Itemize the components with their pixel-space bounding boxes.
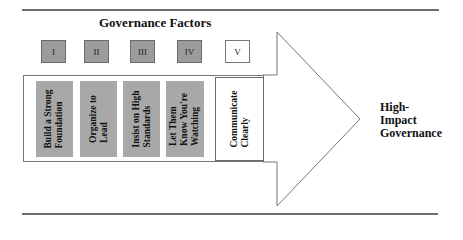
factor-box-label: V (234, 47, 241, 57)
factor-column-1: Build a Strong Foundation (36, 81, 73, 157)
factor-box-label: I (52, 47, 55, 57)
factor-box-label: III (138, 47, 147, 57)
factor-column-5: Communicate Clearly (215, 77, 264, 161)
factor-column-4: Let Them Know You're Watching (166, 81, 204, 157)
factor-box-4: IV (177, 40, 202, 63)
factor-box-1: I (41, 40, 66, 63)
factor-column-label: Insist on High Standards (131, 90, 153, 147)
factor-column-label: Let Them Know You're Watching (169, 92, 202, 145)
factor-box-label: IV (185, 47, 195, 57)
outcome-label: High- Impact Governance (380, 101, 442, 140)
factor-column-label: Communicate Clearly (229, 91, 251, 148)
factor-column-3: Insist on High Standards (123, 81, 160, 157)
factor-box-label: II (94, 47, 100, 57)
factor-box-3: III (130, 40, 155, 63)
factor-column-label: Build a Strong Foundation (44, 90, 66, 149)
factor-column-2: Organize to Lead (80, 81, 117, 157)
factor-box-5: V (225, 40, 250, 63)
factor-column-label: Organize to Lead (88, 95, 110, 143)
bottom-rule (22, 213, 438, 215)
factor-box-2: II (84, 40, 109, 63)
